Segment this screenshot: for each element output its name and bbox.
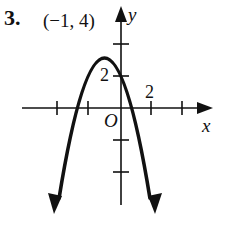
curve-left-arrow-icon [48,193,62,214]
origin-label: O [104,111,118,130]
x-axis-label: x [202,116,210,135]
y-axis-arrow-icon [115,6,127,22]
y-tick-label-2: 2 [100,66,109,84]
curve-right-arrow-icon [148,193,162,214]
x-axis-arrow-icon [197,102,213,114]
y-axis-label: y [128,5,136,24]
x-tick-label-2: 2 [145,83,154,101]
